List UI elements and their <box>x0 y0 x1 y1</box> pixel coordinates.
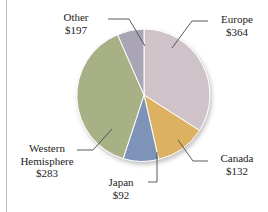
slice-label-western-value: $283 <box>6 167 88 180</box>
slice-label-western-name-line1: Western <box>6 142 88 155</box>
slice-label-other: Other $197 <box>46 11 106 36</box>
slice-label-western-hemisphere: Western Hemisphere $283 <box>6 142 88 180</box>
slice-label-japan-value: $92 <box>96 189 146 202</box>
slice-label-europe-value: $364 <box>210 26 264 39</box>
slice-label-japan: Japan $92 <box>96 176 146 201</box>
slice-label-other-name: Other <box>46 11 106 24</box>
slice-label-canada-value: $132 <box>210 165 264 178</box>
slice-label-canada: Canada $132 <box>210 152 264 177</box>
pie-slices-group <box>77 29 210 161</box>
slice-label-europe-name: Europe <box>210 13 264 26</box>
slice-label-other-value: $197 <box>46 24 106 37</box>
slice-label-canada-name: Canada <box>210 152 264 165</box>
slice-label-europe: Europe $364 <box>210 13 264 38</box>
slice-label-japan-name: Japan <box>96 176 146 189</box>
pie-chart-figure: Other $197 Europe $364 Canada $132 Japan… <box>0 0 268 212</box>
slice-label-western-name-line2: Hemisphere <box>6 155 88 168</box>
